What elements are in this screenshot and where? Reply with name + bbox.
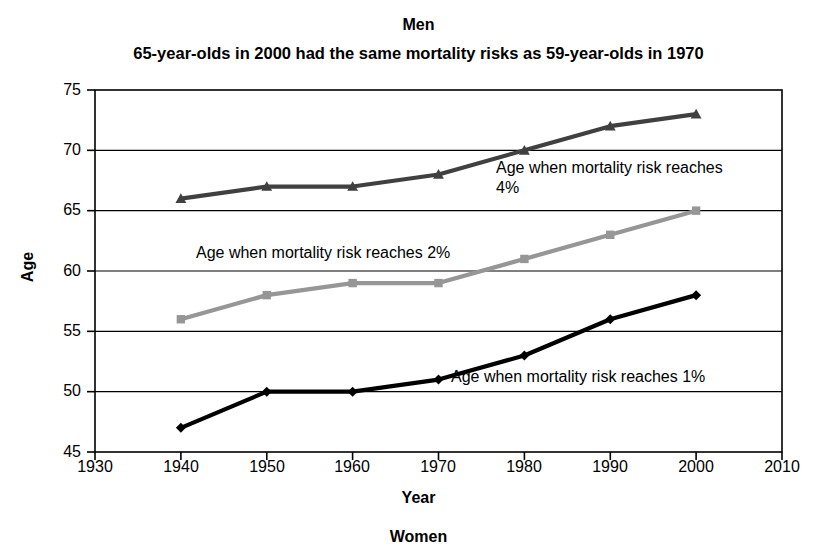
annotation-4-percent: Age when mortality risk reaches4% xyxy=(496,158,776,198)
data-point-marker xyxy=(348,279,356,287)
plot-area xyxy=(0,0,837,558)
annotation-2-percent: Age when mortality risk reaches 2% xyxy=(196,243,450,263)
annotation-4-percent-line1: Age when mortality risk reaches xyxy=(496,159,723,176)
chart-figure: Men 65-year-olds in 2000 had the same mo… xyxy=(0,0,837,558)
data-point-marker xyxy=(177,315,185,323)
y-axis-ticks xyxy=(87,90,95,452)
data-point-marker xyxy=(434,279,442,287)
series-3 xyxy=(176,290,701,433)
data-point-marker xyxy=(520,255,528,263)
data-point-marker xyxy=(606,231,614,239)
annotation-1-percent: Age when mortality risk reaches 1% xyxy=(451,367,705,387)
series-line xyxy=(181,295,696,428)
series-2 xyxy=(177,206,701,323)
series-line xyxy=(181,211,696,320)
data-point-marker xyxy=(434,375,444,385)
annotation-4-percent-line2: 4% xyxy=(496,179,519,196)
data-point-marker xyxy=(263,291,271,299)
data-point-marker xyxy=(692,206,700,214)
x-axis-ticks xyxy=(95,452,782,460)
data-point-marker xyxy=(691,290,701,300)
data-point-marker xyxy=(348,387,358,397)
